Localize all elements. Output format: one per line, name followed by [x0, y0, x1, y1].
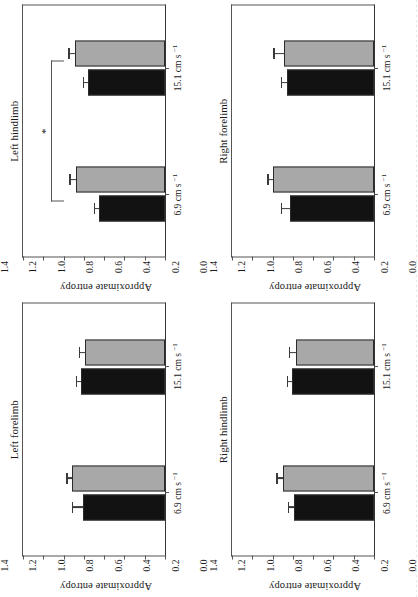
y-tick-label: 0.8 [296, 559, 306, 571]
rotated-figure: Approximate entropy 1.41.21.00.80.60.40.… [0, 0, 418, 597]
y-tick-label: 0.4 [143, 559, 153, 571]
unit-exponent: −1 [380, 44, 388, 51]
bar-slot [232, 40, 374, 66]
bar-slot [23, 339, 165, 365]
bar-slot [232, 69, 374, 95]
y-tick-mark [293, 555, 294, 559]
panel-right-hindlimb: Approximate entropy 1.41.21.00.80.60.40.… [209, 299, 418, 597]
bar-slot [232, 339, 374, 365]
y-tick-label: 0.6 [324, 559, 334, 571]
error-bar [70, 53, 75, 54]
y-tick-mark [43, 555, 44, 559]
y-tick-label: 1.4 [1, 559, 11, 571]
y-axis-title: Approximate entropy [6, 578, 205, 593]
y-tick-mark [354, 555, 355, 559]
bar-group [23, 339, 165, 394]
bar-black [83, 494, 165, 520]
y-tick-mark [84, 257, 85, 261]
y-tick-label: 0.4 [143, 261, 153, 273]
y-tick-mark [293, 257, 294, 261]
category-labels: 6.9 cm s −115.1 cm s −1 [166, 4, 205, 258]
bar-grey [296, 339, 374, 365]
unit-exponent: −1 [171, 472, 179, 479]
y-tick-label: 0.8 [87, 261, 97, 273]
bar-slot [23, 465, 165, 491]
panel-grid: Approximate entropy 1.41.21.00.80.60.40.… [0, 0, 418, 597]
error-bar-cap [289, 346, 290, 357]
error-bar [282, 208, 290, 209]
y-tick-mark [273, 555, 274, 559]
category-label: 6.9 cm s −1 [380, 164, 392, 224]
bar-group [232, 339, 374, 394]
error-bar-cap [281, 203, 282, 214]
bar-black [290, 195, 374, 221]
error-bar [275, 53, 284, 54]
plot-area [231, 303, 375, 557]
unit-exponent: −1 [380, 343, 388, 350]
y-tick-label: 0.6 [324, 261, 334, 273]
y-tick-mark [232, 257, 233, 261]
error-bar [269, 179, 273, 180]
y-tick-label: 0.6 [115, 559, 125, 571]
bar-slot [232, 494, 374, 520]
y-tick-mark [333, 257, 334, 261]
category-labels: 6.9 cm s −115.1 cm s −1 [375, 4, 414, 258]
y-tick-label: 0.2 [172, 261, 182, 273]
bar-slot [23, 166, 165, 192]
y-tick-label: 1.0 [58, 261, 68, 273]
error-bar-cap [281, 77, 282, 88]
y-tick-label: 1.2 [30, 261, 40, 273]
y-tick-mark [252, 257, 253, 261]
bar-group [23, 40, 165, 95]
y-tick-labels: 1.41.21.00.80.60.40.20.0 [6, 258, 205, 280]
y-tick-mark [333, 555, 334, 559]
plot-area [231, 4, 375, 258]
plot-area [22, 303, 166, 557]
y-tick-mark [84, 555, 85, 559]
unit-exponent: −1 [171, 343, 179, 350]
bar-slot [23, 368, 165, 394]
error-bar [282, 82, 287, 83]
error-bar-cap [276, 472, 277, 483]
bar-slot [23, 195, 165, 221]
error-bar [71, 179, 76, 180]
error-bar [290, 351, 296, 352]
bar-black [294, 494, 374, 520]
bar-slot [232, 166, 374, 192]
error-bar-cap [79, 346, 80, 357]
y-tick-label: 1.4 [210, 559, 220, 571]
panel-title: Right forelimb [215, 4, 231, 258]
y-tick-label: 0.2 [381, 261, 391, 273]
category-label: 15.1 cm s −1 [380, 336, 392, 396]
bar-black [287, 69, 374, 95]
bar-slot [232, 195, 374, 221]
y-tick-label: 1.0 [267, 261, 277, 273]
y-tick-label: 0.8 [87, 559, 97, 571]
y-tick-mark [104, 555, 105, 559]
error-bar-cap [68, 48, 69, 59]
panel-left-hindlimb: Approximate entropy 1.41.21.00.80.60.40.… [0, 0, 209, 299]
bar-container [232, 304, 374, 556]
error-bar [73, 506, 83, 507]
bar-slot [23, 40, 165, 66]
bar-black [88, 69, 165, 95]
bar-grey [273, 166, 374, 192]
bar-container [232, 5, 374, 257]
y-tick-labels: 1.41.21.00.80.60.40.20.0 [215, 258, 414, 280]
y-tick-mark [145, 555, 146, 559]
error-bar-cap [72, 501, 73, 512]
significance-asterisk: * [40, 128, 51, 134]
y-tick-label: 0.4 [352, 261, 362, 273]
bar-group [23, 166, 165, 221]
category-label: 15.1 cm s −1 [380, 37, 392, 97]
error-bar-cap [83, 77, 84, 88]
y-tick-label: 1.0 [58, 559, 68, 571]
error-bar-cap [76, 375, 77, 386]
bar-grey [76, 166, 165, 192]
y-tick-label: 0.2 [381, 559, 391, 571]
bar-group [23, 465, 165, 520]
y-tick-label: 0.6 [115, 261, 125, 273]
y-tick-mark [23, 555, 24, 559]
error-bar-cap [267, 174, 268, 185]
unit-exponent: −1 [171, 44, 179, 51]
